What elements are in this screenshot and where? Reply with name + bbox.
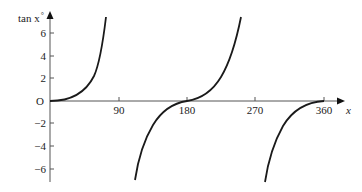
- x-tick-label-90: 90: [114, 104, 126, 116]
- x-axis-label: x: [345, 104, 351, 116]
- y-tick-label-6: 6: [41, 27, 47, 39]
- origin-label: O: [36, 95, 44, 107]
- y-tick-label-2: 2: [41, 72, 47, 84]
- tan-graph: tan x° x O 90 180 270 360 6 4 2 −2 −4 −6: [0, 0, 362, 192]
- y-tick-label-neg2: −2: [34, 117, 46, 129]
- x-axis-arrow-icon: [337, 98, 345, 105]
- y-tick-label-neg4: −4: [34, 140, 46, 152]
- y-tick-label-4: 4: [41, 50, 47, 62]
- x-ticks: [119, 97, 324, 101]
- y-axis-arrow-icon: [47, 11, 54, 19]
- x-tick-label-180: 180: [179, 104, 196, 116]
- tan-curve-branch-2: [135, 17, 241, 180]
- y-axis-label: tan x°: [18, 11, 44, 24]
- x-tick-label-270: 270: [247, 104, 264, 116]
- y-tick-label-neg6: −6: [34, 163, 46, 175]
- x-tick-label-360: 360: [316, 104, 333, 116]
- tan-curve-branch-1: [50, 17, 106, 101]
